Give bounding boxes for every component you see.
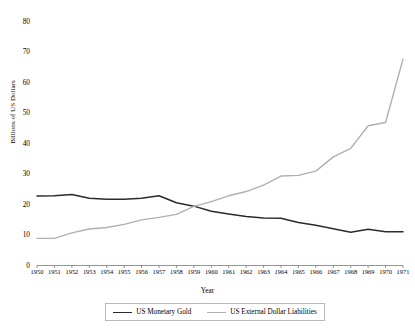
legend-swatch-icon-gold: [113, 312, 132, 313]
y-axis-tick-70: 70: [8, 48, 30, 56]
legend-item-us-monetary-gold: US Monetary Gold: [113, 308, 191, 316]
x-axis-title: Year: [0, 286, 415, 295]
y-axis-tick-10: 10: [8, 231, 30, 239]
legend-label-us-monetary-gold: US Monetary Gold: [136, 308, 191, 316]
series-line-us-external-dollar-liabilities: [37, 59, 403, 238]
chart-container: 01020304050607080 1950195119521953195419…: [0, 0, 415, 328]
chart-plot-area: [0, 0, 415, 328]
x-axis-tick-1971: 1971: [388, 268, 415, 276]
legend-swatch-icon-liabilities: [207, 312, 226, 313]
legend-item-us-external-dollar-liabilities: US External Dollar Liabilities: [207, 308, 316, 316]
y-axis-title: Billions of US Dollars: [9, 62, 17, 162]
y-axis-tick-80: 80: [8, 18, 30, 26]
legend-label-us-external-dollar-liabilities: US External Dollar Liabilities: [230, 308, 316, 316]
y-axis-tick-30: 30: [8, 170, 30, 178]
chart-legend: US Monetary Gold US External Dollar Liab…: [105, 303, 325, 321]
series-line-us-monetary-gold: [37, 195, 403, 233]
y-axis-tick-20: 20: [8, 201, 30, 209]
